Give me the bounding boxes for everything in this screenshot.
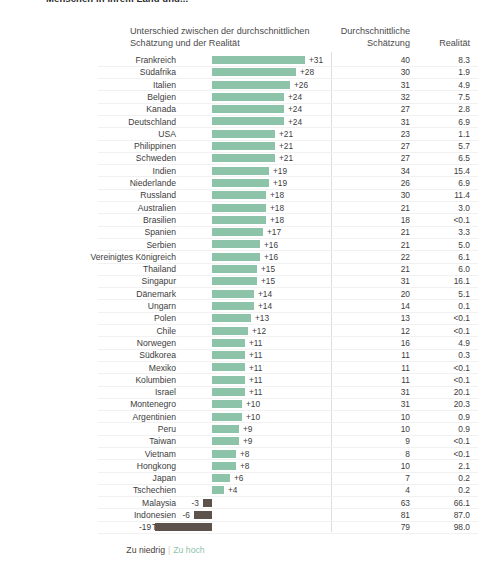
reality-value: <0.1: [412, 375, 470, 385]
chart-rows: Frankreich+31408.3Südafrika+28301.9Itali…: [0, 54, 478, 534]
bar-negative: [203, 499, 212, 507]
bar-value-label: -6: [168, 510, 190, 520]
reality-value: <0.1: [412, 326, 470, 336]
legend-too-high: Zu hoch: [173, 545, 204, 555]
reality-value: 2.1: [412, 461, 470, 471]
bar-value-label: +8: [240, 461, 249, 471]
reality-value: 3.3: [412, 227, 470, 237]
bar-zone: +28: [0, 66, 331, 78]
bar-zone: +21: [0, 128, 331, 140]
bar-positive: [212, 265, 257, 273]
bar-zone: +24: [0, 91, 331, 103]
table-row: Italien+26314.9: [0, 79, 478, 91]
reality-value: 98.0: [412, 522, 470, 532]
bar-value-label: +14: [258, 289, 272, 299]
header-reality: Realität: [412, 37, 470, 49]
bar-positive: [212, 376, 245, 384]
table-row: Brasilien+1818<0.1: [0, 214, 478, 226]
estimate-value: 14: [336, 301, 410, 311]
bar-zone: +10: [0, 398, 331, 410]
bar-value-label: +12: [252, 326, 266, 336]
bar-value-label: -19: [129, 522, 151, 532]
bar-zone: +12: [0, 325, 331, 337]
table-row: Peru+9100.9: [0, 423, 478, 435]
bar-positive: [212, 240, 260, 248]
bar-zone: +9: [0, 435, 331, 447]
bar-zone: +8: [0, 460, 331, 472]
estimate-value: 31: [336, 387, 410, 397]
bar-positive: [212, 351, 245, 359]
bar-positive: [212, 462, 236, 470]
table-row: Belgien+24327.5: [0, 91, 478, 103]
table-row: Norwegen+11164.9: [0, 337, 478, 349]
table-row: Tschechien+440.2: [0, 484, 478, 496]
bar-zone: +11: [0, 386, 331, 398]
bar-positive: [212, 413, 242, 421]
bar-zone: +19: [0, 177, 331, 189]
header-difference: Unterschied zwischen der durchschnittlic…: [130, 25, 335, 50]
bar-zone: +6: [0, 472, 331, 484]
bar-value-label: +19: [273, 166, 287, 176]
bar-zone: +14: [0, 288, 331, 300]
bar-value-label: +15: [261, 276, 275, 286]
estimate-value: 8: [336, 449, 410, 459]
reality-value: 66.1: [412, 498, 470, 508]
bar-positive: [212, 400, 242, 408]
table-row: Serbien+16215.0: [0, 238, 478, 250]
reality-value: 5.0: [412, 240, 470, 250]
table-row: Kolumbien+1111<0.1: [0, 374, 478, 386]
bar-value-label: +24: [288, 104, 302, 114]
estimate-value: 30: [336, 190, 410, 200]
estimate-value: 31: [336, 399, 410, 409]
chart-root: Menschen in ihrem Land und... Unterschie…: [0, 0, 478, 575]
table-row: Taiwan+99<0.1: [0, 435, 478, 447]
bar-zone: +10: [0, 411, 331, 423]
bar-zone: +15: [0, 275, 331, 287]
estimate-value: 11: [336, 350, 410, 360]
table-row: Südafrika+28301.9: [0, 66, 478, 78]
estimate-value: 21: [336, 240, 410, 250]
bar-positive: [212, 314, 251, 322]
table-row: Vietnam+88<0.1: [0, 448, 478, 460]
estimate-value: 9: [336, 436, 410, 446]
legend-too-low: Zu niedrig: [126, 545, 165, 555]
reality-value: 6.5: [412, 153, 470, 163]
bar-negative: [155, 523, 212, 531]
estimate-value: 10: [336, 424, 410, 434]
bar-positive: [212, 474, 230, 482]
bar-value-label: +14: [258, 301, 272, 311]
bar-value-label: +9: [243, 436, 252, 446]
bar-positive: [212, 204, 266, 212]
bar-positive: [212, 486, 224, 494]
table-row: Russland+183011.4: [0, 189, 478, 201]
estimate-value: 26: [336, 178, 410, 188]
reality-value: 0.3: [412, 350, 470, 360]
reality-value: 1.9: [412, 67, 470, 77]
bar-value-label: +9: [243, 424, 252, 434]
bar-value-label: +24: [288, 92, 302, 102]
bar-positive: [212, 179, 269, 187]
table-row: Japan+670.2: [0, 472, 478, 484]
table-row: Dänemark+14205.1: [0, 288, 478, 300]
table-row: Südkorea+11110.3: [0, 349, 478, 361]
bar-zone: +15: [0, 263, 331, 275]
reality-value: 8.3: [412, 55, 470, 65]
table-row: Indien+193415.4: [0, 165, 478, 177]
bar-value-label: +8: [240, 449, 249, 459]
bar-positive: [212, 68, 296, 76]
bar-value-label: +15: [261, 264, 275, 274]
bar-zone: +18: [0, 202, 331, 214]
reality-value: 6.1: [412, 252, 470, 262]
table-row: Spanien+17213.3: [0, 226, 478, 238]
bar-positive: [212, 277, 257, 285]
reality-value: 0.1: [412, 301, 470, 311]
bar-zone: +24: [0, 103, 331, 115]
table-row: Türkei-197998.0: [0, 521, 478, 533]
bar-positive: [212, 228, 263, 236]
estimate-value: 10: [336, 461, 410, 471]
table-row: Vereinigtes Königreich+16226.1: [0, 251, 478, 263]
estimate-value: 31: [336, 117, 410, 127]
bar-zone: +21: [0, 140, 331, 152]
bar-zone: +16: [0, 251, 331, 263]
column-headers: Unterschied zwischen der durchschnittlic…: [0, 0, 478, 52]
